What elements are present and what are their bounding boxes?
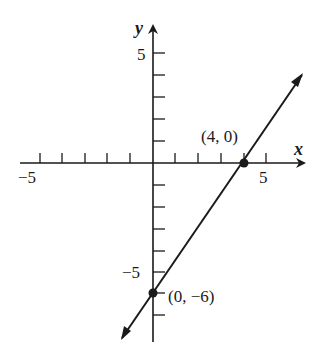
point-x-intercept (240, 159, 249, 168)
y-axis-label: y (133, 18, 144, 38)
coordinate-plane: y x 5 −5 −5 5 (4, 0) (0, −6) (0, 0, 321, 349)
point-label-y-intercept: (0, −6) (168, 287, 214, 306)
x-axis-label: x (293, 139, 303, 159)
point-label-x-intercept: (4, 0) (201, 127, 238, 146)
arrow-head-top (291, 73, 303, 87)
x-tick-label-5: 5 (259, 168, 268, 187)
x-tick-label-neg5: −5 (18, 168, 36, 187)
point-y-intercept (149, 289, 158, 298)
y-tick-label-neg5: −5 (122, 263, 140, 282)
y-ticks (153, 53, 165, 315)
y-tick-label-5: 5 (137, 45, 146, 64)
